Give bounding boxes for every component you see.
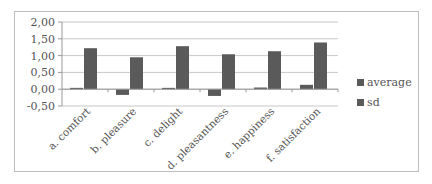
y-tick-label: 0,50 — [31, 66, 56, 79]
bar-sd — [130, 57, 143, 89]
gridlines — [62, 22, 338, 106]
y-tick-label: -0,50 — [27, 100, 55, 113]
bar-average — [116, 89, 129, 95]
bar-sd — [268, 51, 281, 89]
bar-average — [208, 89, 221, 96]
bar-average — [300, 85, 313, 89]
x-category-label: c. delight — [141, 104, 185, 148]
legend: average sd — [357, 76, 412, 109]
legend-label-average: average — [367, 76, 412, 89]
y-tick-label: 2,00 — [31, 16, 56, 29]
legend-swatch-sd — [357, 99, 364, 106]
x-axis: a. comfortb. pleasurec. delightd. pleasa… — [45, 89, 338, 171]
y-tick-label: 0,00 — [31, 83, 56, 96]
bar-sd — [84, 48, 97, 89]
bar-sd — [222, 54, 235, 89]
y-tick-label: 1,00 — [31, 50, 56, 63]
legend-label-sd: sd — [367, 96, 380, 109]
legend-swatch-average — [357, 79, 364, 86]
y-tick-label: 1,50 — [31, 33, 56, 46]
x-category-label: b. pleasure — [88, 105, 138, 155]
bars — [70, 42, 327, 95]
bar-chart: 2,001,501,000,500,00-0,50 a. comfortb. p… — [0, 0, 432, 184]
bar-sd — [314, 42, 327, 89]
bar-sd — [176, 46, 189, 89]
y-axis: 2,001,501,000,500,00-0,50 — [27, 16, 62, 113]
